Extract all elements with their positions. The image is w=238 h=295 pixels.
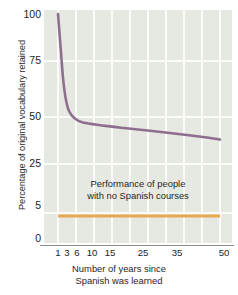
- y-tick-label-25: 25: [29, 158, 41, 169]
- chart-annotation: Performance of people with no Spanish co…: [44, 178, 232, 201]
- x-tick-label-35: 35: [172, 248, 183, 258]
- series-line-vocabulary-retained: [58, 14, 220, 140]
- x-tick-label-6: 6: [74, 248, 79, 258]
- y-tick-label-0: 0: [35, 233, 41, 244]
- x-axis-tick-labels: 1 3 6 10 15 25 35 50: [0, 248, 238, 262]
- x-tick-label-25: 25: [138, 248, 149, 258]
- x-tick-label-3: 3: [64, 248, 69, 258]
- plot-area: [44, 10, 232, 243]
- x-axis-title: Number of years since Spanish was learne…: [0, 263, 238, 286]
- x-axis-title-line-2: Spanish was learned: [0, 275, 238, 287]
- y-tick-label-75: 75: [29, 55, 41, 66]
- x-tick-label-50: 50: [219, 248, 230, 258]
- x-tick-label-15: 15: [105, 248, 116, 258]
- annotation-line-1: Performance of people: [44, 178, 232, 190]
- chart-figure: Percentage of original vocabulary retain…: [0, 0, 238, 295]
- annotation-line-2: with no Spanish courses: [44, 190, 232, 202]
- x-tick-label-10: 10: [87, 248, 98, 258]
- x-tick-label-1: 1: [55, 248, 60, 258]
- y-tick-label-5: 5: [35, 200, 41, 211]
- x-axis-title-line-1: Number of years since: [0, 263, 238, 275]
- y-tick-label-100: 100: [23, 9, 41, 20]
- chart-series-layer: [44, 10, 232, 243]
- y-tick-label-50: 50: [29, 111, 41, 122]
